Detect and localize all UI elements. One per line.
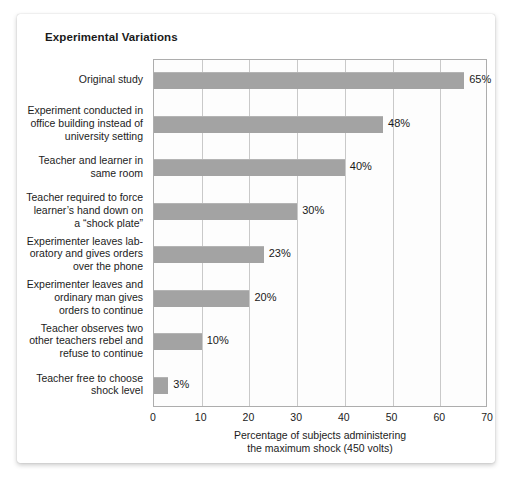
bar <box>154 72 464 89</box>
x-axis-title-line2: the maximum shock (450 volts) <box>153 442 487 455</box>
category-label-line: office building instead of <box>0 117 143 130</box>
category-label: Experiment conducted inoffice building i… <box>0 104 143 142</box>
category-label-line: Experimenter leaves lab- <box>0 235 143 248</box>
bar-value-label: 10% <box>207 332 229 349</box>
category-label: Teacher free to chooseshock level <box>0 372 143 397</box>
x-axis-tick-label: 60 <box>424 411 454 423</box>
category-label-line: university setting <box>0 130 143 143</box>
gridline <box>345 60 346 406</box>
bar <box>154 203 297 220</box>
bar <box>154 116 383 133</box>
category-label-line: a “shock plate” <box>0 217 143 230</box>
category-label-line: same room <box>0 167 143 180</box>
category-label: Teacher observes twoother teachers rebel… <box>0 322 143 360</box>
bar <box>154 290 249 307</box>
category-label: Teacher and learner insame room <box>0 154 143 179</box>
category-label-line: other teachers rebel and <box>0 334 143 347</box>
category-label-line: learner’s hand down on <box>0 204 143 217</box>
x-axis-tick-label: 10 <box>186 411 216 423</box>
category-label-line: ordinary man gives <box>0 291 143 304</box>
category-label-line: Teacher free to choose <box>0 372 143 385</box>
bar-value-label: 48% <box>388 115 410 132</box>
category-label-line: refuse to continue <box>0 347 143 360</box>
category-label: Original study <box>0 73 143 86</box>
category-label-line: Teacher required to force <box>0 191 143 204</box>
x-axis-tick-label: 70 <box>472 411 502 423</box>
category-label-line: over the phone <box>0 260 143 273</box>
category-label-line: orders to continue <box>0 304 143 317</box>
gridline <box>393 60 394 406</box>
category-label-line: Teacher observes two <box>0 322 143 335</box>
bar-value-label: 23% <box>269 245 291 262</box>
x-axis-tick-label: 0 <box>138 411 168 423</box>
x-axis-tick-label: 50 <box>377 411 407 423</box>
gridline <box>249 60 250 406</box>
gridline <box>297 60 298 406</box>
category-label: Teacher required to forcelearner’s hand … <box>0 191 143 229</box>
x-axis-tick-label: 40 <box>329 411 359 423</box>
category-label-line: Experiment conducted in <box>0 104 143 117</box>
bar-value-label: 30% <box>302 202 324 219</box>
bar <box>154 333 202 350</box>
bar-value-label: 65% <box>469 71 491 88</box>
category-label-line: Experimenter leaves and <box>0 278 143 291</box>
x-axis-tick-label: 30 <box>281 411 311 423</box>
category-label: Experimenter leaves lab-oratory and give… <box>0 235 143 273</box>
bar <box>154 377 168 394</box>
x-axis-tick-label: 20 <box>233 411 263 423</box>
category-label-line: Teacher and learner in <box>0 154 143 167</box>
x-axis-title: Percentage of subjects administering the… <box>153 429 487 454</box>
category-label-line: Original study <box>0 73 143 86</box>
category-label-line: oratory and gives orders <box>0 247 143 260</box>
gridline <box>202 60 203 406</box>
bar-chart: Percentage of subjects administering the… <box>17 14 495 463</box>
bar-value-label: 3% <box>173 376 189 393</box>
bar <box>154 159 345 176</box>
plot-area <box>153 59 487 407</box>
bar-value-label: 40% <box>350 158 372 175</box>
chart-card: Experimental Variations Percentage of su… <box>17 14 495 463</box>
category-label-line: shock level <box>0 384 143 397</box>
x-axis-title-line1: Percentage of subjects administering <box>153 429 487 442</box>
bar-value-label: 20% <box>254 289 276 306</box>
category-label: Experimenter leaves andordinary man give… <box>0 278 143 316</box>
gridline <box>440 60 441 406</box>
bar <box>154 246 264 263</box>
